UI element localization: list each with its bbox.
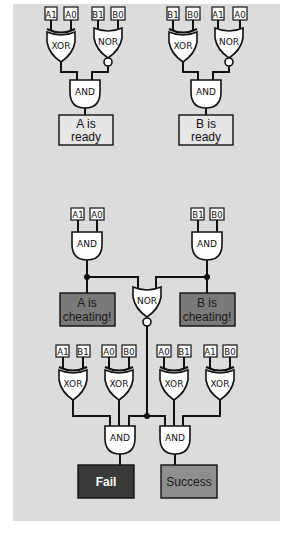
input-label: A0 [91,209,102,220]
junction-dot [84,274,90,280]
gate-label: AND [197,239,217,249]
gate-label: NOR [219,37,239,47]
gate-label: XOR [64,379,83,389]
input-a0: A0 [233,7,247,20]
xor-gate-4: XOR [206,370,234,400]
input-label: A1 [72,209,83,220]
xor-gate-3: XOR [160,370,188,400]
wire [92,66,108,80]
box-label-line1: A is [76,117,95,131]
b-is-cheating-box: B is cheating! [180,293,235,326]
box-label-line1: B is [197,296,217,310]
box-label-line2: cheating! [63,310,112,324]
box-label-line1: A is [77,296,96,310]
input-b1: B1 [191,208,204,220]
wire [156,277,207,290]
gate-label: AND [110,433,130,443]
input-a1: A1 [45,7,57,20]
inversion-bubble [143,318,151,326]
input-label: A1 [204,346,215,357]
box-label-line2: cheating! [183,310,232,324]
input-label: B1 [77,346,88,357]
gate-label: AND [75,87,95,97]
wire [73,400,110,426]
gate-label: NOR [98,37,118,47]
input-label: B0 [211,209,222,220]
inversion-bubble [104,58,112,66]
wire [213,66,229,80]
cheating-group: AND AND NOR A1 A0 B1 B0 A is cheating! B… [60,208,235,326]
box-label-line2: ready [71,130,101,144]
input-b1: B1 [167,7,179,20]
input-b1: B1 [92,7,104,20]
gate-label: XOR [165,379,184,389]
junction-dot [144,413,150,419]
b-is-ready-box: B is ready [179,115,233,145]
box-label-line1: B is [196,117,216,131]
box-label-line2: ready [191,130,221,144]
input-label: B1 [167,9,178,20]
gate-label: NOR [137,296,157,306]
ready-a-group: XOR NOR AND A1 A0 B1 B0 A is ready [45,7,125,145]
input-label: B1 [178,346,189,357]
input-label: B0 [187,9,198,20]
xor-gate: XOR [169,32,197,62]
input-b0: B0 [210,208,224,220]
logic-diagram: XOR NOR AND A1 A0 B1 B0 A is ready [0,0,289,534]
a-is-ready-box: A is ready [59,115,113,145]
input-b1: B1 [178,345,191,357]
wire [183,400,220,426]
input-a0: A0 [102,345,116,357]
and-gate-fail: AND [105,426,135,454]
input-label: A0 [234,9,245,20]
input-b0: B0 [111,7,125,20]
input-label: A1 [45,9,56,20]
input-b1: B1 [77,345,90,357]
and-gate: AND [191,80,221,108]
gate-label: AND [196,87,216,97]
input-label: A0 [65,9,76,20]
gate-label: XOR [110,379,129,389]
input-b0: B0 [186,7,200,20]
input-label: B0 [112,9,123,20]
xor-gate: XOR [47,32,75,62]
wire [183,62,198,80]
and-gate-success: AND [160,426,190,454]
xor-gate-2: XOR [105,370,133,400]
gate-label: XOR [211,379,230,389]
input-label: B1 [92,9,103,20]
input-a0: A0 [157,345,171,357]
input-a1: A1 [204,345,217,357]
inversion-bubble [225,58,233,66]
xor-gate-1: XOR [59,370,87,400]
input-label: A0 [158,346,169,357]
input-label: B1 [192,209,203,220]
gate-label: AND [165,433,185,443]
junction-dot [204,274,210,280]
wire [87,277,138,290]
wire [61,62,77,80]
and-gate-b: AND [192,232,222,260]
input-b0: B0 [223,345,237,357]
gate-label: AND [77,239,97,249]
success-box: Success [161,465,217,498]
input-label: A1 [57,346,68,357]
input-a1: A1 [56,345,69,357]
input-label: B0 [123,346,134,357]
result-group: XOR XOR XOR XOR AND AND A1 B1 A0 B0 A0 B… [56,326,237,498]
nor-gate: NOR [215,28,243,66]
gate-label: XOR [52,41,71,51]
input-a1: A1 [212,7,224,20]
fail-label: Fail [96,475,117,489]
nor-gate: NOR [133,287,161,326]
fail-box: Fail [78,465,134,498]
input-a0: A0 [64,7,78,20]
gate-label: XOR [174,41,193,51]
input-label: A1 [212,9,223,20]
success-label: Success [166,475,211,489]
ready-b-group: XOR NOR AND B1 B0 A1 A0 B is ready [167,7,247,145]
a-is-cheating-box: A is cheating! [60,293,115,326]
and-gate: AND [70,80,100,108]
input-label: B0 [224,346,235,357]
input-label: A0 [103,346,114,357]
